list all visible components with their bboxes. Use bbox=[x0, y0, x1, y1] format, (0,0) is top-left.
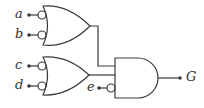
inverter-bubble-d bbox=[38, 82, 46, 90]
input-label-b: b bbox=[15, 27, 23, 40]
input-label-c: c bbox=[15, 58, 22, 71]
terminal-dot-d bbox=[27, 84, 31, 88]
inverter-bubble-c bbox=[38, 62, 46, 70]
wire-or1-to-and bbox=[90, 26, 115, 66]
logic-circuit-diagram bbox=[0, 0, 204, 108]
and-gate bbox=[115, 58, 158, 98]
output-label-g: G bbox=[186, 70, 196, 83]
or-gate-1 bbox=[43, 6, 90, 46]
inverter-bubble-e bbox=[107, 84, 115, 92]
terminal-dot-a bbox=[27, 13, 31, 17]
terminal-dot-g bbox=[178, 76, 182, 80]
inverter-bubble-b bbox=[38, 31, 46, 39]
terminal-dot-e bbox=[97, 86, 101, 90]
input-label-d: d bbox=[15, 78, 23, 91]
input-label-e: e bbox=[87, 80, 95, 93]
terminal-dot-b bbox=[27, 33, 31, 37]
inverter-bubble-a bbox=[38, 11, 46, 19]
terminal-dot-c bbox=[27, 64, 31, 68]
or-gate-2 bbox=[43, 57, 89, 95]
input-label-a: a bbox=[15, 7, 23, 20]
